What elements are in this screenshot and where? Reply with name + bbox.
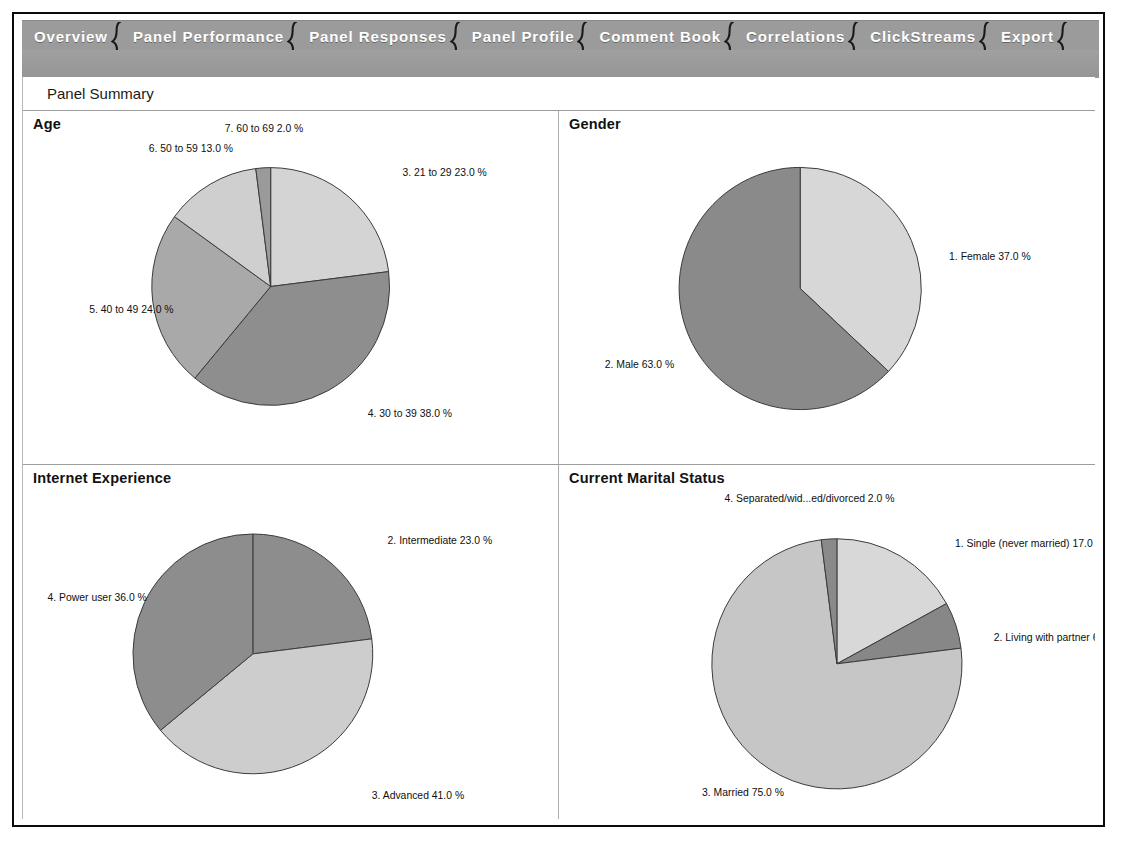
tab-overview[interactable]: Overview <box>22 21 121 51</box>
tab-label: Panel Profile <box>472 28 575 45</box>
pie-slice-label: 2. Male 63.0 % <box>605 359 674 370</box>
tab-label: Comment Book <box>599 28 721 45</box>
tab-clickstreams[interactable]: ClickStreams <box>858 21 989 51</box>
pie-slice-label: 1. Female 37.0 % <box>949 251 1031 262</box>
pie-chart-marital-status: 1. Single (never married) 17.0 %2. Livin… <box>559 465 1095 819</box>
tab-separator-icon <box>1057 22 1069 50</box>
pie-slice-label: 4. 30 to 39 38.0 % <box>368 408 452 419</box>
pie-chart-gender: 1. Female 37.0 %2. Male 63.0 % <box>559 111 1095 464</box>
pie-slice-label: 5. 40 to 49 24.0 % <box>89 304 173 315</box>
tab-label: Panel Performance <box>133 28 284 45</box>
pie-chart-age: 3. 21 to 29 23.0 %4. 30 to 39 38.0 %5. 4… <box>23 111 558 464</box>
tab-label: Correlations <box>746 28 845 45</box>
panel-age: Age 3. 21 to 29 23.0 %4. 30 to 39 38.0 %… <box>23 111 559 465</box>
pie-slice-label: 2. Intermediate 23.0 % <box>388 535 493 546</box>
pie-slice-label: 7. 60 to 69 2.0 % <box>225 123 304 134</box>
tab-label: ClickStreams <box>870 28 976 45</box>
panel-gender: Gender 1. Female 37.0 %2. Male 63.0 % <box>559 111 1095 465</box>
pie-slice[interactable] <box>271 168 389 287</box>
pie-slice-label: 3. Advanced 41.0 % <box>372 790 464 801</box>
content-area: Panel Summary Age 3. 21 to 29 23.0 %4. 3… <box>22 77 1095 819</box>
panel-summary-label: Panel Summary <box>47 85 154 102</box>
tab-export[interactable]: Export <box>989 21 1067 51</box>
pie-svg-age: 3. 21 to 29 23.0 %4. 30 to 39 38.0 %5. 4… <box>23 111 558 464</box>
pie-chart-internet-experience: 2. Intermediate 23.0 %3. Advanced 41.0 %… <box>23 465 558 819</box>
pie-slice-label: 1. Single (never married) 17.0 % <box>955 538 1095 549</box>
tab-label: Overview <box>34 28 108 45</box>
panel-internet-experience: Internet Experience 2. Intermediate 23.0… <box>23 465 559 819</box>
tab-label: Export <box>1001 28 1054 45</box>
panel-marital-status: Current Marital Status 1. Single (never … <box>559 465 1095 819</box>
tab-panel-profile[interactable]: Panel Profile <box>460 21 588 51</box>
tab-panel-performance[interactable]: Panel Performance <box>121 21 297 51</box>
panel-summary-bar: Panel Summary <box>23 77 1095 111</box>
tab-label: Panel Responses <box>309 28 447 45</box>
pie-slice-label: 3. 21 to 29 23.0 % <box>402 167 486 178</box>
tab-panel-responses[interactable]: Panel Responses <box>297 21 460 51</box>
pie-slice-label: 4. Separated/wid...ed/divorced 2.0 % <box>724 493 894 504</box>
pie-slice-label: 3. Married 75.0 % <box>702 787 784 798</box>
pie-svg-gender: 1. Female 37.0 %2. Male 63.0 % <box>559 111 1095 464</box>
tab-correlations[interactable]: Correlations <box>734 21 858 51</box>
tab-comment-book[interactable]: Comment Book <box>587 21 734 51</box>
pie-slice[interactable] <box>253 534 372 654</box>
pie-svg-marital-status: 1. Single (never married) 17.0 %2. Livin… <box>559 465 1095 819</box>
pie-slice-label: 2. Living with partner 6.0 <box>994 632 1095 643</box>
pie-svg-internet-experience: 2. Intermediate 23.0 %3. Advanced 41.0 %… <box>23 465 558 819</box>
tab-list: OverviewPanel PerformancePanel Responses… <box>22 21 1067 51</box>
tab-bar: OverviewPanel PerformancePanel Responses… <box>22 20 1099 78</box>
application-window: OverviewPanel PerformancePanel Responses… <box>12 12 1105 827</box>
charts-grid: Age 3. 21 to 29 23.0 %4. 30 to 39 38.0 %… <box>23 111 1095 819</box>
pie-slice-label: 6. 50 to 59 13.0 % <box>149 143 233 154</box>
pie-slice-label: 4. Power user 36.0 % <box>47 592 146 603</box>
